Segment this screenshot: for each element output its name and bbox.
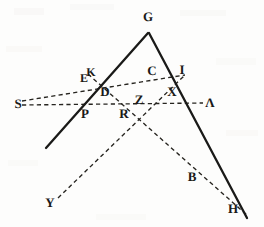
point-label-r: R — [119, 107, 128, 120]
point-label-eta: H — [228, 202, 238, 215]
point-label-i: I — [179, 63, 184, 76]
geometric-figure: GICXΛKEDZSPRBHY — [0, 0, 264, 227]
point-label-e: E — [80, 72, 88, 84]
point-label-d: D — [100, 85, 109, 98]
figure-canvas — [0, 0, 264, 227]
dashed-segment-S-to-Lambda — [22, 103, 203, 105]
point-label-p: P — [81, 107, 89, 120]
point-label-c: C — [147, 64, 156, 77]
solid-segment-left-leg — [46, 33, 148, 148]
point-label-y: Y — [45, 196, 54, 209]
point-label-x: X — [167, 85, 176, 98]
point-label-b: B — [188, 170, 197, 183]
point-label-lambda: Λ — [205, 96, 214, 109]
point-label-s: S — [14, 97, 21, 110]
solid-segment-right-leg — [149, 33, 247, 218]
dashed-segment-Y-to-I — [58, 76, 184, 198]
point-label-z: Z — [135, 93, 144, 106]
point-label-g: G — [143, 10, 153, 23]
